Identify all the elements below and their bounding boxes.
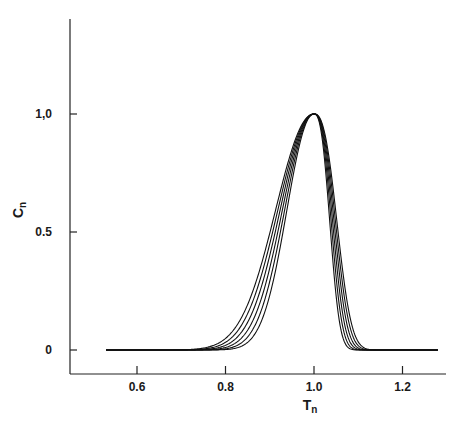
data-curve xyxy=(106,114,438,350)
x-tick-label: 0.8 xyxy=(217,380,234,394)
x-tick-label: 1.2 xyxy=(394,380,411,394)
y-tick-label: 0.5 xyxy=(35,225,52,239)
curve-family xyxy=(106,114,438,350)
data-curve xyxy=(106,114,438,350)
data-curve xyxy=(106,114,438,350)
x-tick-label: 1.0 xyxy=(306,380,323,394)
y-ticks: 00.51,0 xyxy=(35,107,77,357)
data-curve xyxy=(106,114,438,350)
chart: 0.60.81.01.2 00.51,0 Tn Cn xyxy=(0,0,460,428)
data-curve xyxy=(106,114,438,350)
x-ticks: 0.60.81.01.2 xyxy=(129,366,412,394)
y-tick-label: 0 xyxy=(45,343,52,357)
x-axis-label: Tn xyxy=(303,397,318,415)
y-tick-label: 1,0 xyxy=(35,107,52,121)
x-tick-label: 0.6 xyxy=(129,380,146,394)
y-axis-label: Cn xyxy=(10,202,28,218)
data-curve xyxy=(106,114,438,350)
